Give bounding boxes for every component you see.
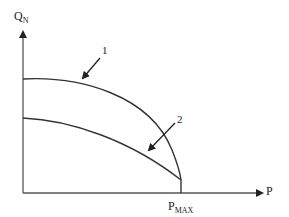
curve-2 [23, 118, 181, 180]
curve-1 [23, 79, 181, 180]
curve-2-label: 2 [177, 113, 183, 125]
pmax-label-main: P [168, 199, 175, 213]
pmax-label-sub: MAX [175, 206, 194, 215]
arrow-2-icon [149, 123, 175, 150]
y-axis-label: QN [14, 9, 28, 25]
curve-1-label: 1 [102, 44, 108, 56]
y-axis-label-sub: N [23, 16, 29, 25]
x-axis-label: P [266, 184, 273, 199]
arrow-1-icon [83, 58, 100, 78]
pmax-label: PMAX [168, 199, 193, 215]
y-axis-label-main: Q [14, 9, 23, 23]
diagram-canvas [0, 0, 289, 217]
